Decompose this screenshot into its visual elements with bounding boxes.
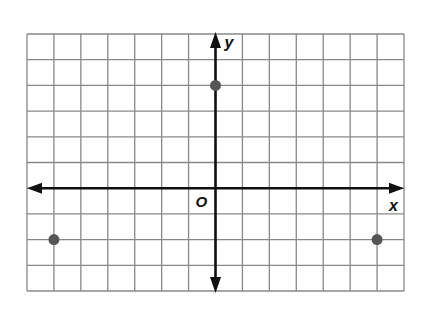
data-point	[48, 234, 59, 245]
origin-label: O	[196, 193, 208, 210]
coordinate-plane: x y O	[0, 0, 423, 316]
data-point	[372, 234, 383, 245]
y-axis-label: y	[224, 34, 235, 51]
x-axis-arrow-left-icon	[27, 183, 42, 194]
data-point	[210, 80, 221, 91]
x-axis-label: x	[388, 197, 399, 214]
x-axis-arrow-right-icon	[389, 183, 404, 194]
